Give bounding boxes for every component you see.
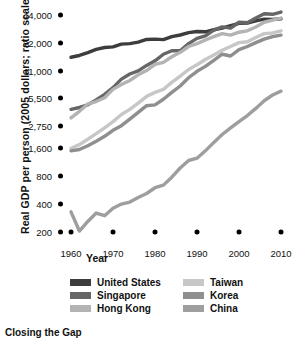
chart-figure: Real GDP per person (2005 dollars; ratio… <box>0 0 303 351</box>
legend-item-united-states[interactable]: United States <box>70 277 183 288</box>
legend-item-hong-kong[interactable]: Hong Kong <box>70 303 183 314</box>
figure-caption: Closing the Gap <box>5 327 82 338</box>
y-axis-ticks: 44,00022,00011,0005,5002,7501,6008004002… <box>0 0 62 240</box>
y-tick-label: 11,000 <box>24 65 52 76</box>
y-tick-label: 400 <box>36 199 52 210</box>
y-tick-label: 200 <box>36 227 52 238</box>
series-line-china <box>71 91 281 231</box>
legend-item-china[interactable]: China <box>183 303 295 314</box>
x-axis-title: Year <box>86 252 108 264</box>
x-tick-label: 2010 <box>270 248 291 259</box>
legend-label: United States <box>97 277 161 288</box>
y-tick-label: 800 <box>36 171 52 182</box>
series-line-korea <box>71 35 281 151</box>
chart-legend: United StatesTaiwanSingaporeKoreaHong Ko… <box>70 276 295 315</box>
y-tick-label: 44,000 <box>23 9 52 20</box>
y-tick-label: 5,500 <box>28 93 52 104</box>
legend-item-korea[interactable]: Korea <box>183 290 295 301</box>
legend-swatch-icon <box>70 305 91 312</box>
y-tick-label: 2,750 <box>28 121 52 132</box>
x-tick-label: 1990 <box>186 248 207 259</box>
series-lines <box>62 8 298 248</box>
legend-label: Singapore <box>97 290 146 301</box>
legend-label: Hong Kong <box>97 303 151 314</box>
series-line-hong-kong <box>71 18 281 118</box>
y-tick-label: 22,000 <box>23 37 52 48</box>
x-tick-label: 1960 <box>60 248 81 259</box>
legend-swatch-icon <box>183 305 204 312</box>
x-tick-dot <box>111 230 116 235</box>
legend-swatch-icon <box>70 279 91 286</box>
legend-item-taiwan[interactable]: Taiwan <box>183 277 295 288</box>
legend-swatch-icon <box>70 292 91 299</box>
x-tick-label: 2000 <box>228 248 249 259</box>
legend-label: Taiwan <box>210 277 243 288</box>
plot-area: 196019701980199020002010 <box>62 8 298 236</box>
series-line-singapore <box>71 12 281 109</box>
x-tick-dot <box>153 230 158 235</box>
legend-swatch-icon <box>183 279 204 286</box>
x-tick-dot <box>279 230 284 235</box>
x-tick-dot <box>69 230 74 235</box>
legend-label: Korea <box>210 290 238 301</box>
legend-item-singapore[interactable]: Singapore <box>70 290 183 301</box>
x-tick-label: 1980 <box>144 248 165 259</box>
legend-label: China <box>210 303 238 314</box>
y-tick-label: 1,600 <box>28 143 52 154</box>
legend-swatch-icon <box>183 292 204 299</box>
x-tick-dot <box>237 230 242 235</box>
x-tick-dot <box>195 230 200 235</box>
